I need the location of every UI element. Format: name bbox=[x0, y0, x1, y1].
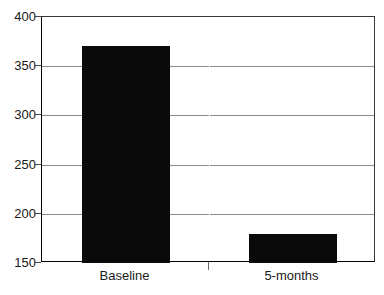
category-divider bbox=[209, 17, 210, 261]
y-axis-tick-label: 300 bbox=[4, 107, 36, 122]
y-axis-tick-mark bbox=[34, 16, 41, 17]
y-axis-tick-mark bbox=[34, 114, 41, 115]
x-axis-tick-label: Baseline bbox=[41, 268, 208, 283]
y-axis-tick-label: 350 bbox=[4, 58, 36, 73]
x-axis-tick-label: 5-months bbox=[208, 268, 375, 283]
y-axis-tick-label: 150 bbox=[4, 255, 36, 270]
y-axis-tick-mark bbox=[34, 65, 41, 66]
y-axis-tick-mark bbox=[34, 213, 41, 214]
y-axis-tick-label: 200 bbox=[4, 205, 36, 220]
y-axis: 400350300250200150 bbox=[0, 0, 36, 295]
bar-chart: 400350300250200150 Baseline5-months bbox=[0, 0, 384, 295]
bar bbox=[249, 234, 337, 263]
y-axis-tick-mark bbox=[34, 262, 41, 263]
y-axis-tick-label: 400 bbox=[4, 9, 36, 24]
bar bbox=[82, 46, 170, 263]
plot-area bbox=[41, 16, 375, 262]
y-axis-tick-label: 250 bbox=[4, 156, 36, 171]
y-axis-tick-mark bbox=[34, 164, 41, 165]
